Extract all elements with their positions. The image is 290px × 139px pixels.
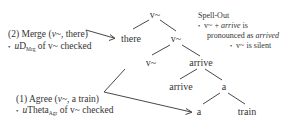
node-vbar: v~ xyxy=(171,34,181,44)
merge-title: (2) Merge (v~, there) xyxy=(8,30,88,40)
node-dp: a xyxy=(222,82,226,92)
edge-dp-noun xyxy=(228,93,245,104)
spellout-line1: •v~ + arrive is xyxy=(198,22,248,30)
spellout-line2: pronounced as arrived xyxy=(207,32,279,40)
node-root: v~ xyxy=(150,10,160,20)
node-noun: train xyxy=(238,107,256,117)
node-vhead2: arrive xyxy=(169,82,192,92)
node-vp: arrive xyxy=(189,58,212,68)
node-vhead: v~ xyxy=(146,58,156,68)
edge-dp-det xyxy=(203,93,220,104)
edge-root-spec xyxy=(133,20,149,29)
arrow-agree xyxy=(104,92,191,112)
node-det: a xyxy=(197,107,201,117)
arrow-merge xyxy=(86,30,114,38)
spellout-line3: •v~ is silent xyxy=(230,42,271,50)
agree-title: (1) Agree (v~, a train) xyxy=(16,95,99,105)
agree-bullet: •uThetaAgr of v~ checked xyxy=(16,106,113,117)
edge-vp-dp xyxy=(205,69,222,80)
spellout-title: Spell-Out xyxy=(198,12,229,20)
arrow-agree-up xyxy=(104,69,125,92)
edge-vbar-vhead xyxy=(152,45,170,55)
node-there: there xyxy=(121,34,141,44)
edge-root-vbar xyxy=(160,20,176,31)
edge-vp-vhead2 xyxy=(180,69,197,79)
edge-vbar-vp xyxy=(182,45,200,56)
merge-bullet: •uDMrg of v~ checked xyxy=(8,42,92,53)
